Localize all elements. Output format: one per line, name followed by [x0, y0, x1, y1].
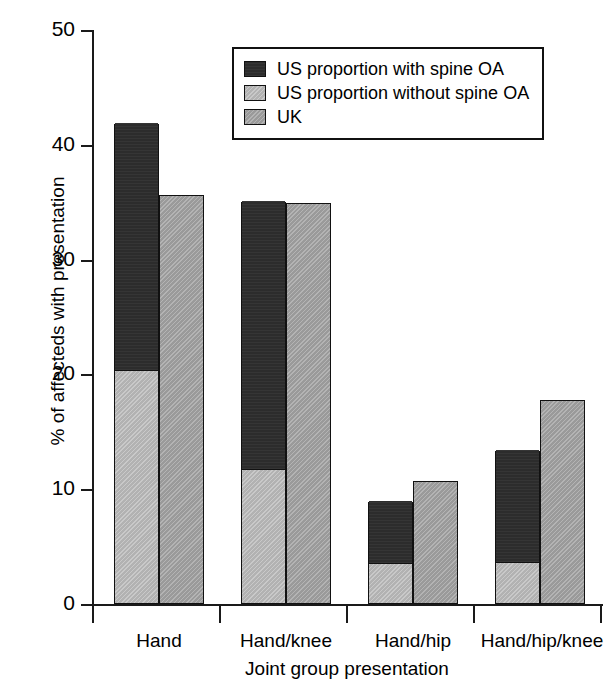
bar-us-hand-hip[interactable] — [368, 502, 413, 604]
y-tick-label-40: 40 — [52, 132, 75, 156]
legend-label-uk: UK — [277, 108, 302, 126]
legend-item-us-without-spine-oa[interactable]: US proportion without spine OA — [244, 81, 532, 105]
bar-us-hand-knee[interactable] — [241, 202, 286, 604]
bar-segment-us-without-spine-oa — [369, 564, 412, 603]
bar-segment-us-without-spine-oa — [242, 470, 285, 603]
legend-item-uk[interactable]: UK — [244, 105, 532, 129]
bar-us-hand[interactable] — [114, 124, 159, 604]
y-tick-50: 50 — [81, 30, 92, 32]
x-tick-boundary-2 — [346, 605, 348, 623]
y-axis-title: % of affecteds with presentation — [47, 161, 69, 461]
y-tick-label-50: 50 — [52, 17, 75, 41]
x-axis-title: Joint group presentation — [92, 658, 602, 680]
x-tick-boundary-3 — [473, 605, 475, 623]
legend-swatch-icon — [244, 61, 266, 77]
bar-us-hand-hip-knee[interactable] — [495, 451, 540, 604]
legend: US proportion with spine OA US proportio… — [232, 47, 544, 140]
bar-segment-us-without-spine-oa — [115, 371, 158, 603]
legend-item-us-with-spine-oa[interactable]: US proportion with spine OA — [244, 57, 532, 81]
y-tick-label-10: 10 — [52, 476, 75, 500]
y-tick-0: 0 — [81, 604, 92, 606]
x-tick-boundary-4 — [600, 605, 602, 623]
legend-label-us-without-spine-oa: US proportion without spine OA — [277, 84, 529, 102]
legend-label-us-with-spine-oa: US proportion with spine OA — [277, 60, 504, 78]
legend-swatch-icon — [244, 109, 266, 125]
x-category-label-hand-hip: Hand/hip — [375, 630, 451, 652]
y-tick-30: 30 — [81, 260, 92, 262]
y-tick-label-0: 0 — [63, 591, 75, 615]
bar-segment-us-with-spine-oa — [242, 201, 285, 470]
x-tick-boundary-1 — [219, 605, 221, 623]
bar-uk-hand-hip-knee[interactable] — [540, 400, 585, 604]
bar-segment-us-with-spine-oa — [115, 123, 158, 371]
x-category-label-hand: Hand — [136, 630, 181, 652]
bar-uk-hand-hip[interactable] — [413, 481, 458, 604]
legend-swatch-icon — [244, 85, 266, 101]
y-tick-10: 10 — [81, 489, 92, 491]
y-tick-20: 20 — [81, 374, 92, 376]
y-axis-line — [92, 30, 94, 605]
y-tick-label-20: 20 — [52, 361, 75, 385]
x-category-label-hand-hip-knee: Hand/hip/knee — [481, 630, 604, 652]
bar-segment-us-with-spine-oa — [369, 501, 412, 564]
bar-segment-us-with-spine-oa — [496, 450, 539, 563]
x-tick-boundary-0 — [92, 605, 94, 623]
bar-chart: % of affecteds with presentation 0 10 20… — [0, 0, 610, 698]
y-tick-label-30: 30 — [52, 247, 75, 271]
x-category-label-hand-knee: Hand/knee — [240, 630, 332, 652]
y-tick-40: 40 — [81, 145, 92, 147]
bar-uk-hand-knee[interactable] — [286, 203, 331, 604]
bar-uk-hand[interactable] — [159, 195, 204, 604]
bar-segment-us-without-spine-oa — [496, 563, 539, 603]
